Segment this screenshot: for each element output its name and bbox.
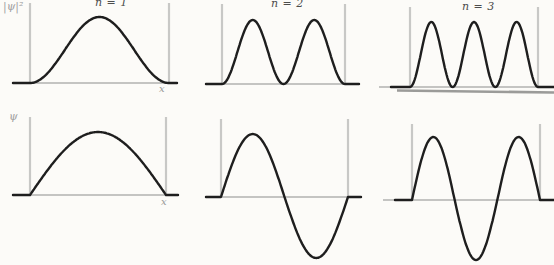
wavefunction-curve-top-right <box>391 22 554 87</box>
wavefunction-curve-top-middle <box>206 20 359 84</box>
particle-in-a-box-figure: n = 1 n = 2 n = 3 |ψ|² ψ x x <box>0 0 554 265</box>
wavefunction-curve-top-left <box>13 17 177 83</box>
wavefunction-curve-bottom-left <box>13 132 178 195</box>
x-axis-label-top: x <box>159 84 165 94</box>
x-axis-label-bottom: x <box>161 197 167 207</box>
scan-artifact-line <box>397 91 554 93</box>
wavefunction-curve-bottom-right <box>395 137 554 260</box>
panel-title-n2: n = 2 <box>271 0 304 9</box>
panel-title-n1: n = 1 <box>95 0 128 8</box>
panel-title-n3: n = 3 <box>462 1 495 12</box>
psi-axis-label: ψ <box>9 111 18 122</box>
psi-squared-axis-label: |ψ|² <box>3 1 23 12</box>
wavefunction-plot-canvas <box>0 0 554 265</box>
